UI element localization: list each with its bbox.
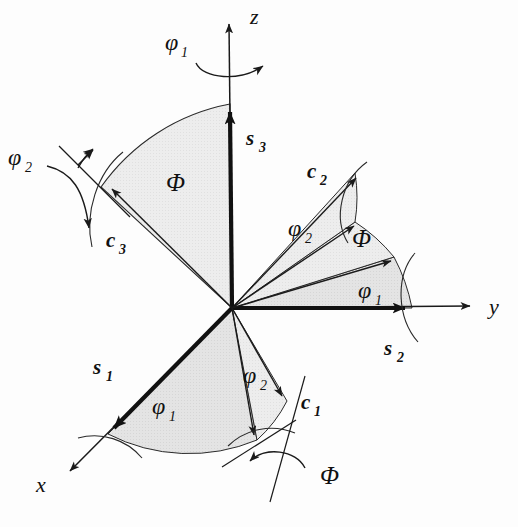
- label-Phi-bottom: Φ: [320, 462, 339, 489]
- rot-arrow-phi2-c3: [47, 166, 89, 228]
- label-phi1-top-base: φ: [165, 29, 178, 55]
- label-s2: s 2: [383, 336, 404, 365]
- label-phi1-right-base: φ: [358, 277, 371, 303]
- label-phi1-bottom-base: φ: [152, 393, 165, 419]
- label-s3: s 3: [245, 126, 266, 155]
- label-s2-base: s: [383, 336, 392, 360]
- label-Phi-right: Φ: [352, 225, 371, 252]
- label-phi1-right-sub: 1: [375, 293, 382, 308]
- label-phi2-right-sub: 2: [305, 231, 312, 246]
- label-c1-base: c: [301, 390, 311, 414]
- label-c3-sub: 3: [118, 242, 126, 257]
- label-c2-base: c: [307, 159, 317, 183]
- label-phi2-left-base: φ: [8, 144, 21, 170]
- c3-extension-arrow: [78, 150, 93, 165]
- sector-phi1-bottom: [108, 308, 257, 454]
- label-s1-sub: 1: [106, 369, 113, 384]
- label-c3-base: c: [106, 228, 116, 252]
- label-phi2-bottom-base: φ: [243, 362, 256, 388]
- label-phi2-left: φ 2: [8, 144, 32, 175]
- label-s1-base: s: [92, 355, 101, 379]
- label-c1: c 1: [301, 390, 321, 419]
- label-phi1-top-sub: 1: [181, 45, 188, 60]
- label-phi2-right-base: φ: [288, 215, 301, 241]
- euler-angle-figure: z y x s 1 s 2 s 3 c 1 c 2: [0, 0, 518, 527]
- label-s3-sub: 3: [258, 140, 266, 155]
- rot-arrow-Phi-c1: [250, 452, 305, 468]
- label-phi1-top: φ 1: [165, 29, 188, 60]
- label-axis-x: x: [35, 472, 46, 497]
- label-Phi-upper-left: Φ: [166, 169, 185, 196]
- label-s3-base: s: [245, 126, 254, 150]
- diagram-canvas: z y x s 1 s 2 s 3 c 1 c 2: [0, 0, 518, 527]
- label-c3: c 3: [106, 228, 126, 257]
- label-axis-y: y: [487, 294, 499, 319]
- label-s2-sub: 2: [396, 350, 404, 365]
- label-c2-sub: 2: [319, 173, 327, 188]
- label-phi1-bottom-sub: 1: [169, 409, 176, 424]
- label-axis-z: z: [249, 4, 259, 29]
- vector-s3: [230, 112, 232, 308]
- label-c2: c 2: [307, 159, 327, 188]
- label-phi2-bottom-sub: 2: [260, 378, 267, 393]
- sector-phi-upper-left: [101, 104, 232, 308]
- label-c1-sub: 1: [314, 404, 321, 419]
- label-phi2-left-sub: 2: [25, 160, 32, 175]
- label-s1: s 1: [92, 355, 113, 384]
